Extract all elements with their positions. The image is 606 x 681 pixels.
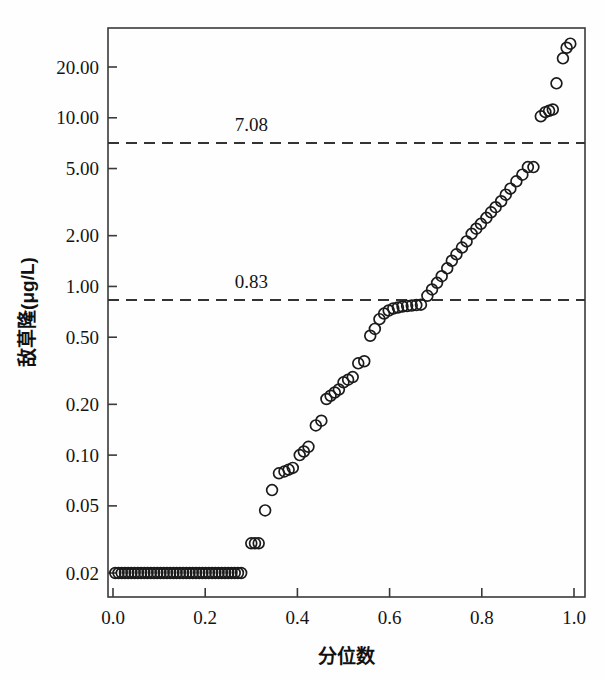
y-tick-label: 20.00	[56, 57, 99, 78]
x-tick-label: 1.0	[562, 607, 586, 628]
reference-line-label: 7.08	[235, 114, 268, 135]
quantile-plot-figure: 0.020.050.100.200.501.002.005.0010.0020.…	[0, 0, 606, 681]
y-tick-label: 2.00	[66, 225, 99, 246]
y-tick-label: 5.00	[66, 158, 99, 179]
y-tick-label: 1.00	[66, 276, 99, 297]
y-tick-label: 0.20	[66, 394, 99, 415]
x-tick-label: 0.2	[193, 607, 217, 628]
y-tick-label: 0.50	[66, 327, 99, 348]
x-tick-label: 0.6	[378, 607, 402, 628]
chart-canvas: 0.020.050.100.200.501.002.005.0010.0020.…	[0, 0, 606, 681]
y-tick-label: 10.00	[56, 107, 99, 128]
y-tick-label: 0.05	[66, 495, 99, 516]
y-tick-label: 0.10	[66, 445, 99, 466]
x-tick-label: 0.8	[470, 607, 494, 628]
y-axis-title: 敌草隆(μg/L)	[16, 257, 38, 367]
reference-line-label: 0.83	[235, 271, 268, 292]
x-axis-title: 分位数	[318, 645, 376, 667]
x-tick-label: 0.0	[101, 607, 125, 628]
x-tick-label: 0.4	[286, 607, 310, 628]
y-tick-label: 0.02	[66, 563, 99, 584]
